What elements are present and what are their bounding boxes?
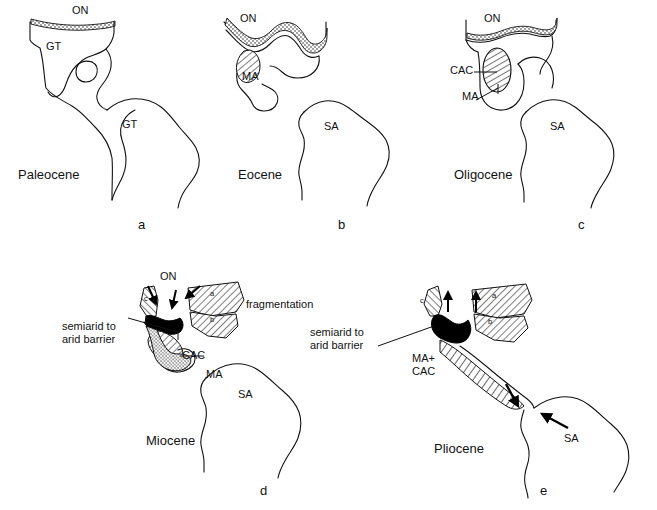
panel-e-label-block-c: c — [420, 297, 424, 306]
panel-c-map — [440, 0, 657, 240]
panel-b-eocene: ON MA SA Eocene b — [220, 0, 440, 240]
panel-a-map — [0, 0, 220, 240]
panel-b-label-ma: MA — [242, 70, 259, 83]
panel-d-label-block-c: c — [144, 295, 148, 304]
panel-e-label-ma-cac: MA+ CAC — [412, 352, 435, 377]
panel-e-pliocene: c a b semiarid to arid barrier MA+ CAC S… — [300, 260, 657, 510]
panel-a-epoch: Paleocene — [18, 168, 79, 183]
panel-e-label-block-b: b — [488, 318, 492, 327]
panel-d-label-cac: CAC — [182, 349, 205, 362]
panel-c-oligocene: ON CAC MA SA Oligocene c — [440, 0, 657, 240]
panel-e-label-block-a: a — [492, 292, 496, 301]
panel-d-epoch: Miocene — [146, 434, 195, 449]
panel-c-epoch: Oligocene — [454, 168, 513, 183]
panel-b-label-on: ON — [240, 12, 257, 25]
panel-a-label-gt-south: GT — [122, 118, 137, 131]
panel-c-label-on: ON — [484, 12, 501, 25]
panel-a-letter: a — [138, 218, 145, 233]
panel-a-label-on: ON — [72, 4, 89, 17]
panel-c-label-cac: CAC — [450, 64, 473, 77]
panel-b-label-sa: SA — [324, 120, 339, 133]
panel-a-label-gt-north: GT — [46, 40, 61, 53]
panel-d-label-block-b: b — [210, 316, 214, 325]
panel-d-letter: d — [260, 484, 267, 499]
panel-e-letter: e — [540, 484, 547, 499]
panel-c-label-sa: SA — [550, 120, 565, 133]
panel-d-label-block-a: a — [210, 290, 214, 299]
panel-e-label-barrier: semiarid to arid barrier — [310, 326, 364, 351]
panel-e-label-sa: SA — [564, 432, 579, 445]
panel-e-map — [300, 260, 657, 510]
panel-b-epoch: Eocene — [238, 168, 282, 183]
panel-d-label-sa: SA — [238, 388, 253, 401]
panel-e-epoch: Pliocene — [434, 442, 484, 457]
panel-a-paleocene: ON GT GT Paleocene a — [0, 0, 220, 240]
panel-c-label-ma: MA — [462, 90, 479, 103]
panel-b-letter: b — [338, 218, 345, 233]
panel-c-letter: c — [578, 218, 585, 233]
panel-d-label-ma: MA — [206, 368, 223, 381]
panel-d-label-barrier: semiarid to arid barrier — [62, 320, 116, 345]
panel-d-label-on: ON — [160, 270, 177, 283]
